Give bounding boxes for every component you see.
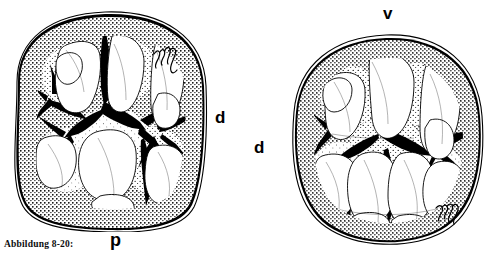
label-right-tooth-distal: d bbox=[254, 139, 264, 156]
figure-page: d p v d Abbildung 8-20: bbox=[0, 0, 500, 259]
figure-illustration-area: d p v d bbox=[0, 0, 500, 259]
label-left-tooth-distal: d bbox=[215, 109, 225, 126]
left-molar-illustration bbox=[4, 10, 216, 232]
label-left-tooth-posterior: p bbox=[110, 231, 121, 249]
label-right-tooth-vestibular: v bbox=[383, 5, 392, 22]
right-molar-illustration bbox=[272, 24, 496, 248]
figure-caption: Abbildung 8-20: bbox=[4, 239, 73, 249]
